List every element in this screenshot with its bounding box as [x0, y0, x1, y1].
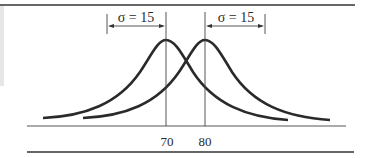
- left-sigma-bracket: σ = 15: [107, 10, 165, 34]
- diagram-canvas: σ = 15 σ = 15 70 80: [0, 0, 371, 158]
- normal-distribution-diagram: σ = 15 σ = 15 70 80: [0, 0, 371, 158]
- arrow-right-icon: [159, 24, 165, 28]
- left-sigma-label: σ = 15: [118, 10, 154, 25]
- right-sigma-label: σ = 15: [218, 10, 254, 25]
- arrow-right-icon: [258, 24, 264, 28]
- arrow-left-icon: [206, 24, 212, 28]
- tick-label-70: 70: [161, 134, 174, 149]
- side-panel: [0, 6, 4, 86]
- left-curve: [43, 40, 288, 120]
- arrow-left-icon: [108, 24, 114, 28]
- right-curve: [83, 40, 330, 120]
- right-sigma-bracket: σ = 15: [206, 10, 265, 34]
- tick-label-80: 80: [199, 134, 212, 149]
